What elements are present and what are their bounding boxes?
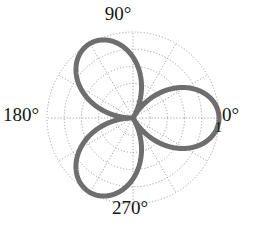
grid-spoke-330 (133, 118, 207, 161)
grid-spoke-30 (133, 75, 207, 118)
angle-label-180: 180° (3, 105, 39, 124)
radial-label-1: 1 (215, 121, 222, 135)
grid-spoke-210 (59, 118, 133, 161)
rose-curve-group (76, 40, 219, 196)
angle-label-270: 270° (112, 198, 148, 217)
angle-label-90: 90° (105, 4, 132, 23)
grid-spoke-150 (59, 75, 133, 118)
rose-curve-path (76, 40, 219, 196)
angle-label-0: 0° (222, 105, 239, 124)
